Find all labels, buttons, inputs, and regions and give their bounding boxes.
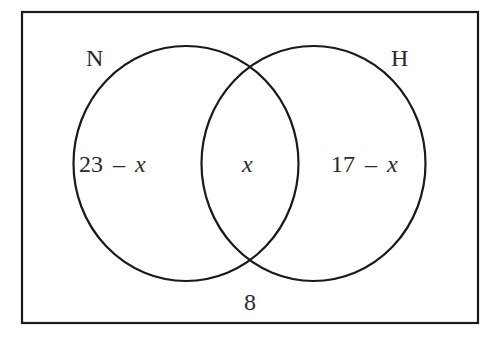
region-n-only: 23 – x (79, 151, 146, 177)
region-h-only-number: 17 (331, 151, 355, 177)
set-h-label: H (391, 45, 408, 71)
set-n-label: N (86, 45, 103, 71)
region-n-only-number: 23 (79, 151, 103, 177)
region-n-only-variable: x (134, 151, 146, 177)
region-n-only-operator: – (112, 151, 126, 177)
venn-diagram: N H 23 – x x 17 – x 8 (0, 0, 491, 341)
region-h-only-variable: x (386, 151, 398, 177)
region-h-only: 17 – x (331, 151, 398, 177)
region-h-only-operator: – (364, 151, 378, 177)
region-intersection: x (241, 151, 253, 177)
region-outside: 8 (244, 289, 256, 315)
